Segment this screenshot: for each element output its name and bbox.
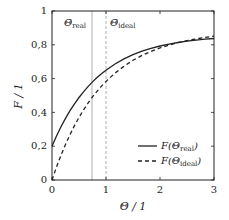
x-axis-label: Θ / 1 xyxy=(120,200,147,213)
y-tick-label: 0,2 xyxy=(31,140,47,151)
y-tick-label: 0 xyxy=(41,174,47,185)
y-tick-label: 0,6 xyxy=(31,73,47,84)
x-tick-label: 1 xyxy=(103,184,109,195)
legend-real-label: F(Θreal) xyxy=(160,140,198,153)
legend: F(Θreal) F(Θideal) xyxy=(138,140,201,168)
y-tick-label: 1 xyxy=(41,5,47,16)
x-tick-label: 2 xyxy=(157,184,163,195)
vline-ideal-label: Θ̄ideal xyxy=(110,17,136,30)
series-real-line xyxy=(52,39,214,147)
vline-real-label: Θ̄real xyxy=(64,17,87,30)
y-tick-label: 0,8 xyxy=(31,39,47,50)
y-tick-label: 0,4 xyxy=(31,107,47,118)
y-axis-label: F / 1 xyxy=(12,83,25,109)
legend-ideal-label: F(Θideal) xyxy=(160,155,201,168)
x-ticks xyxy=(52,11,214,180)
plot-frame xyxy=(52,11,214,180)
x-tick-label: 3 xyxy=(211,184,217,195)
cdf-chart: 0 1 2 3 0 0,2 0,4 0,6 0,8 1 Θ / 1 F / 1 … xyxy=(0,0,229,220)
y-ticks xyxy=(52,11,214,180)
x-tick-label: 0 xyxy=(49,184,55,195)
series-ideal-line xyxy=(52,36,214,180)
